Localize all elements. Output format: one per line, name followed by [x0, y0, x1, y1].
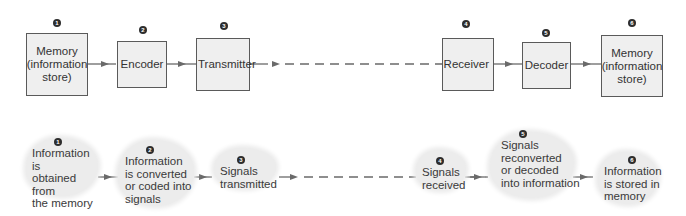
step-6-description: 6 Information is stored in memory — [604, 156, 668, 203]
transmitter-label: Transmitter — [198, 58, 256, 71]
step-4-line-2: received — [422, 179, 472, 192]
step-marker-6: 6 — [628, 19, 636, 27]
step-2-line-4: signals — [125, 193, 193, 206]
step-5-line-2: reconverted — [501, 152, 587, 165]
step-3-line-1: Signals — [220, 165, 280, 178]
step-4-marker: 4 — [436, 157, 444, 165]
step-3-marker: 3 — [237, 156, 245, 164]
step-5-marker: 5 — [519, 130, 527, 138]
step-2-description: 2 Information is converted or coded into… — [125, 146, 193, 205]
step-marker-4: 4 — [462, 20, 470, 28]
decoder-box: Decoder — [522, 42, 571, 89]
memory-source-line-2: (information — [27, 58, 88, 71]
memory-destination-line-2: (information — [602, 60, 663, 73]
step-3-line-2: transmitted — [220, 178, 280, 191]
receiver-box: Receiver — [442, 38, 494, 91]
step-1-line-3: the memory — [32, 197, 100, 210]
step-5-description: 5 Signals reconverted or decoded into in… — [501, 130, 587, 189]
step-5-line-1: Signals — [501, 139, 587, 152]
step-marker-3: 3 — [220, 22, 228, 30]
step-1-line-2: obtained from — [32, 172, 100, 197]
step-1-description: 1 Information is obtained from the memor… — [32, 138, 100, 210]
encoder-box: Encoder — [117, 41, 167, 88]
step-2-line-1: Information — [125, 155, 193, 168]
step-6-marker: 6 — [628, 156, 636, 164]
memory-destination-line-3: store) — [602, 73, 663, 86]
memory-destination-box: Memory (information store) — [601, 35, 663, 97]
step-2-line-3: or coded into — [125, 180, 193, 193]
step-6-line-2: is stored in — [604, 178, 668, 191]
step-5-line-3: or decoded — [501, 164, 587, 177]
memory-source-line-1: Memory — [27, 45, 88, 58]
memory-source-box: Memory (information store) — [26, 33, 88, 96]
step-6-line-1: Information — [604, 165, 668, 178]
step-1-marker: 1 — [54, 138, 62, 146]
transmitter-box: Transmitter — [196, 38, 250, 91]
decoder-label: Decoder — [525, 59, 568, 72]
step-4-description: 4 Signals received — [422, 157, 472, 191]
step-2-line-2: is converted — [125, 168, 193, 181]
step-2-marker: 2 — [146, 146, 154, 154]
memory-destination-line-1: Memory — [602, 47, 663, 60]
memory-source-line-3: store) — [27, 71, 88, 84]
step-marker-2: 2 — [139, 26, 147, 34]
step-6-line-3: memory — [604, 190, 668, 203]
step-marker-1: 1 — [53, 19, 61, 27]
step-marker-5: 5 — [542, 29, 550, 37]
receiver-label: Receiver — [444, 58, 489, 71]
step-4-line-1: Signals — [422, 166, 472, 179]
step-1-line-1: Information is — [32, 147, 100, 172]
encoder-label: Encoder — [121, 58, 164, 71]
step-3-description: 3 Signals transmitted — [220, 156, 280, 190]
step-5-line-4: into information — [501, 177, 587, 190]
